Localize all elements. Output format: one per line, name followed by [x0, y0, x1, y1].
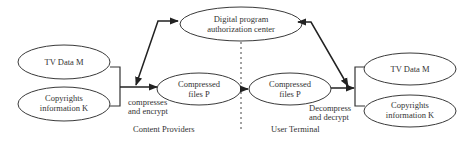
drm-flow-diagram: Digital program authorization center TV … — [0, 0, 473, 145]
compressed-files-right-label-1: Compressed — [269, 79, 312, 89]
auth-center-node: Digital program authorization center — [180, 7, 302, 41]
tv-data-left-label: TV Data M — [44, 57, 83, 67]
tv-data-right-node: TV Data M — [364, 53, 456, 85]
right-split-bracket — [355, 67, 365, 106]
compressed-files-left-label-1: Compressed — [178, 79, 221, 89]
decompress-decrypt-label-2: and decrypt — [309, 112, 350, 122]
tv-data-right-label: TV Data M — [390, 64, 429, 74]
auth-center-label-1: Digital program — [214, 14, 269, 24]
compressed-files-left-label-2: files P — [188, 89, 210, 99]
tv-data-left-node: TV Data M — [18, 45, 110, 79]
compressed-files-left-node: Compressed files P — [157, 73, 241, 105]
copyright-left-node: Copyrights information K — [18, 87, 110, 121]
compress-encrypt-label-2: and encrypt — [128, 106, 169, 116]
left-merge-bracket — [110, 67, 120, 106]
compressed-files-right-node: Compressed files P — [249, 73, 331, 105]
copyright-left-label-1: Copyrights — [45, 93, 83, 103]
compressed-files-right-label-2: files P — [279, 89, 301, 99]
region-user-terminal: User Terminal — [271, 124, 320, 134]
copyright-right-label-2: information K — [386, 110, 435, 120]
auth-center-label-2: authorization center — [207, 24, 275, 34]
copyright-left-label-2: information K — [40, 103, 89, 113]
copyright-right-node: Copyrights information K — [364, 95, 456, 127]
region-content-providers: Content Providers — [133, 124, 195, 134]
copyright-right-label-1: Copyrights — [391, 100, 429, 110]
edge-auth-left — [136, 21, 178, 85]
